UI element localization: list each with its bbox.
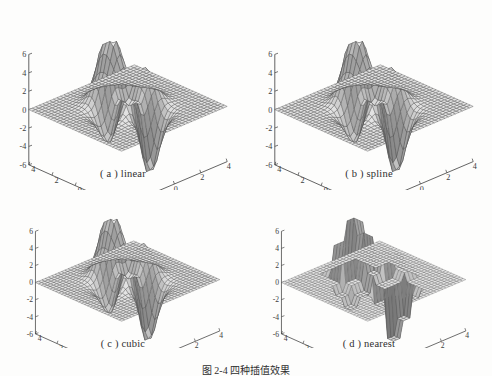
svg-text:-4: -4 <box>265 142 272 151</box>
subplot-caption-d: ( d ) nearest <box>246 338 492 349</box>
svg-text:6: 6 <box>268 50 272 59</box>
svg-text:4: 4 <box>29 244 33 253</box>
svg-text:6: 6 <box>275 227 279 236</box>
svg-text:6: 6 <box>29 227 33 236</box>
svg-text:0: 0 <box>29 278 33 287</box>
subplot-b: 6420-2-4-6420-2-4-4-2024 ( b ) spline <box>246 0 492 190</box>
figure-container: 6420-2-4-6420-2-4-4-2024 ( a ) linear 64… <box>0 0 492 376</box>
surface-plot-a: 6420-2-4-6420-2-4-4-2024 <box>0 0 246 190</box>
svg-text:-4: -4 <box>19 142 26 151</box>
svg-text:2: 2 <box>29 261 33 270</box>
subplot-a: 6420-2-4-6420-2-4-4-2024 ( a ) linear <box>0 0 246 190</box>
svg-text:0: 0 <box>22 106 26 115</box>
surface-svg-d: 6420-2-4-6420-2-4-4-2024 <box>246 190 492 348</box>
subplot-caption-c: ( c ) cubic <box>0 338 246 349</box>
svg-text:4: 4 <box>22 69 26 78</box>
figure-caption: 图 2-4 四种插值效果 <box>0 364 492 376</box>
subplot-d: 6420-2-4-6420-2-4-4-2024 ( d ) nearest <box>246 190 492 348</box>
svg-text:2: 2 <box>268 87 272 96</box>
subplot-caption-a: ( a ) linear <box>0 168 246 179</box>
surface-svg-b: 6420-2-4-6420-2-4-4-2024 <box>246 0 492 190</box>
surface-plot-d: 6420-2-4-6420-2-4-4-2024 <box>246 190 492 348</box>
svg-text:-4: -4 <box>27 313 34 322</box>
surface-svg-a: 6420-2-4-6420-2-4-4-2024 <box>0 0 246 190</box>
subplot-caption-b: ( b ) spline <box>246 168 492 179</box>
svg-text:4: 4 <box>268 69 272 78</box>
svg-text:0: 0 <box>275 278 279 287</box>
svg-text:-2: -2 <box>265 124 272 133</box>
svg-text:-4: -4 <box>273 313 280 322</box>
svg-text:-2: -2 <box>27 295 34 304</box>
svg-text:-2: -2 <box>273 295 280 304</box>
svg-text:4: 4 <box>275 244 279 253</box>
svg-text:-2: -2 <box>19 124 26 133</box>
surface-plot-b: 6420-2-4-6420-2-4-4-2024 <box>246 0 492 190</box>
svg-text:6: 6 <box>22 50 26 59</box>
svg-text:0: 0 <box>268 106 272 115</box>
surface-svg-c: 6420-2-4-6420-2-4-4-2024 <box>0 190 246 348</box>
svg-text:2: 2 <box>22 87 26 96</box>
subplot-grid: 6420-2-4-6420-2-4-4-2024 ( a ) linear 64… <box>0 0 492 348</box>
subplot-c: 6420-2-4-6420-2-4-4-2024 ( c ) cubic <box>0 190 246 348</box>
surface-plot-c: 6420-2-4-6420-2-4-4-2024 <box>0 190 246 348</box>
svg-text:2: 2 <box>275 261 279 270</box>
